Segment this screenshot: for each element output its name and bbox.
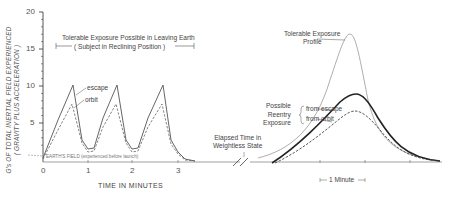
x-tick-3: 3 [176, 166, 180, 175]
elapsed-line2: Weightless State [213, 142, 262, 150]
y-axis-label-line1: G's OF TOTAL INERTIAL FIELD EXPERIENCED [5, 25, 13, 175]
possible-line: Possible [263, 102, 291, 111]
minute-scale-label: 1 Minute [329, 176, 354, 183]
x-tick-2: 2 [130, 166, 134, 175]
y-tick-20: 20 [26, 7, 35, 16]
x-tick-1: 1 [86, 166, 90, 175]
x-axis-label: TIME IN MINUTES [98, 182, 163, 189]
earth-field-label: EARTH'S FIELD (experienced before launch… [46, 154, 138, 159]
earth-field-line [28, 155, 43, 156]
x-tick-0: 0 [41, 166, 45, 175]
earth-field-note: (experienced before launch) [81, 154, 138, 159]
reclining-label: ( Subject in Reclining Position ) [74, 43, 165, 50]
reentry-escape-curve [272, 94, 440, 163]
y-tick-5: 5 [30, 118, 34, 127]
chart-plot-area [0, 0, 451, 198]
tol-profile-line2: Profile [284, 38, 340, 46]
y-axis-label: G's OF TOTAL INERTIAL FIELD EXPERIENCED … [5, 25, 21, 175]
escape-label: escape [87, 84, 108, 91]
from-orbit-label: from orbit [306, 115, 334, 122]
orbit-label: orbit [85, 96, 98, 103]
y-tick-10: 10 [26, 81, 35, 90]
y-axis [39, 12, 43, 162]
tolerable-leaving-label: Tolerable Exposure Possible in Leaving E… [62, 34, 195, 41]
possible-reentry-label: Possible Reentry Exposure [263, 102, 291, 128]
elapsed-line1: Elapsed Time in [213, 134, 262, 142]
y-tick-15: 15 [26, 44, 35, 53]
tol-profile-line1: Tolerable Exposure [284, 30, 340, 38]
tolerable-profile-label: Tolerable Exposure Profile [284, 30, 340, 46]
exposure-line: Exposure [263, 119, 291, 128]
x-axis [43, 158, 442, 166]
reentry-line: Reentry [263, 111, 291, 120]
escape-launch-line [43, 85, 195, 161]
orbit-launch-line [43, 104, 195, 161]
from-escape-label: from escape [306, 105, 342, 112]
tolerable-profile-curve [258, 34, 440, 161]
earth-field-text: EARTH'S FIELD [46, 154, 80, 159]
y-axis-label-line2: ( GRAVITY PLUS ACCELERATION ) [13, 25, 21, 175]
elapsed-time-label: Elapsed Time in Weightless State [213, 134, 262, 150]
